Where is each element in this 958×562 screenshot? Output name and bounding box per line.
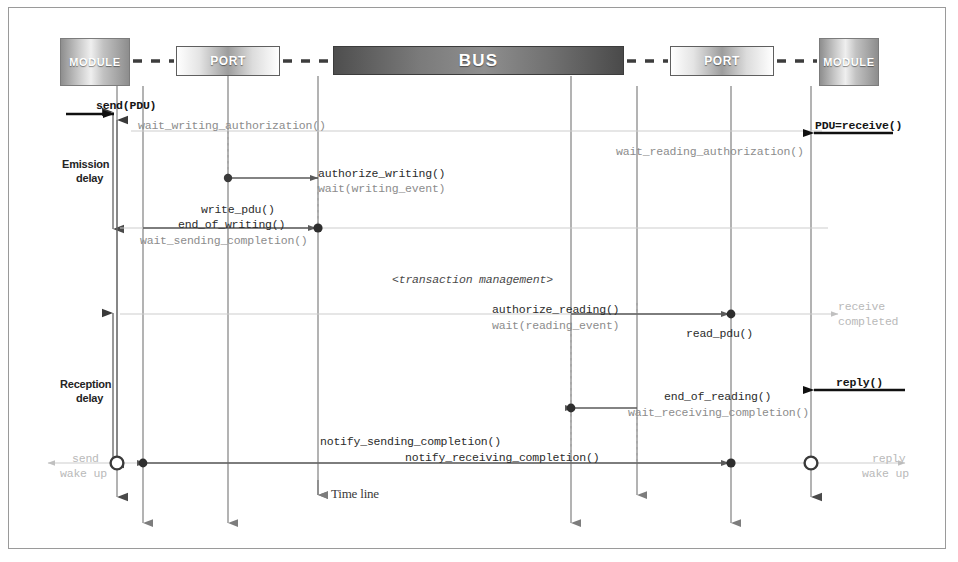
message-receive-completed-line2: completed xyxy=(838,315,898,328)
reception-delay-label-line1: Reception xyxy=(60,378,111,390)
participant-label: MODULE xyxy=(69,56,120,68)
dot-bus-center-write xyxy=(313,223,322,232)
emission-delay-label-line1: Emission xyxy=(62,158,109,170)
circle-module-right-wake xyxy=(805,457,818,470)
message-end-of-reading: end_of_reading() xyxy=(664,390,771,403)
dot-port-right-notify xyxy=(726,458,735,467)
message-notify-receiving-completion: notify_receiving_completion() xyxy=(405,451,599,464)
participant-label: PORT xyxy=(210,54,246,68)
dot-port-left-auth xyxy=(224,174,232,182)
diagram-canvas: MODULE PORT BUS PORT MODULE Emission del… xyxy=(0,0,958,562)
message-send-wake-up-line1: send xyxy=(72,452,99,465)
message-wait-writing-authorization: wait_writing_authorization() xyxy=(138,119,326,132)
message-read-pdu: read_pdu() xyxy=(686,327,753,340)
message-wait-reading-event: wait(reading_event) xyxy=(492,319,619,332)
message-notify-sending-completion: notify_sending_completion() xyxy=(320,435,501,448)
message-reply-wake-up-line1: reply xyxy=(872,452,906,465)
message-send-pdu: send(PDU) xyxy=(96,99,156,112)
message-reply: reply() xyxy=(836,376,883,389)
message-pdu-receive: PDU=receive() xyxy=(815,119,902,132)
participant-header-module-left[interactable]: MODULE xyxy=(60,38,130,86)
message-reply-wake-up-line2: wake up xyxy=(862,467,909,480)
reception-delay-label-line2: delay xyxy=(76,392,103,404)
message-wait-receiving-completion: wait_receiving_completion() xyxy=(628,406,809,419)
timeline-label: Time line xyxy=(331,486,379,502)
participant-header-module-right[interactable]: MODULE xyxy=(819,38,879,86)
message-wait-writing-event: wait(writing_event) xyxy=(318,182,445,195)
message-authorize-writing: authorize_writing() xyxy=(318,167,445,180)
participant-label: MODULE xyxy=(823,56,874,68)
participant-header-port-left[interactable]: PORT xyxy=(176,46,280,76)
dot-bus-right-endread xyxy=(567,404,576,413)
message-wait-sending-completion: wait_sending_completion() xyxy=(140,234,308,247)
message-write-pdu: write_pdu() xyxy=(201,203,275,216)
message-end-of-writing: end_of_writing() xyxy=(178,218,285,231)
message-wait-reading-authorization: wait_reading_authorization() xyxy=(616,145,804,158)
participant-header-port-right[interactable]: PORT xyxy=(670,46,774,76)
circle-module-left-wake xyxy=(111,457,124,470)
participant-label: BUS xyxy=(459,51,499,71)
emission-delay-label-line2: delay xyxy=(76,172,103,184)
note-transaction-management: <transaction management> xyxy=(392,273,553,286)
activation-drops xyxy=(228,131,637,461)
participant-label: PORT xyxy=(704,54,740,68)
participant-header-bus[interactable]: BUS xyxy=(333,46,624,75)
dot-port-left-notify xyxy=(139,459,148,468)
dot-port-right-read xyxy=(727,310,736,319)
message-send-wake-up-line2: wake up xyxy=(60,467,107,480)
message-authorize-reading: authorize_reading() xyxy=(492,303,619,316)
message-receive-completed-line1: receive xyxy=(838,300,885,313)
